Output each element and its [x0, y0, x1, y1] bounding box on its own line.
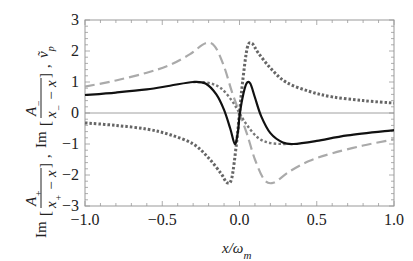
- svg-text:−1: −1: [62, 135, 79, 152]
- svg-text:x+ − x: x+ − x: [43, 170, 64, 209]
- svg-text:1: 1: [71, 73, 79, 90]
- svg-text:3: 3: [71, 11, 79, 28]
- svg-text:−0.5: −0.5: [148, 211, 177, 228]
- svg-text:,: ,: [37, 154, 53, 158]
- svg-text:A+: A+: [23, 190, 44, 207]
- x-tick-labels: −1.0−0.50.00.51.0: [70, 211, 404, 228]
- svg-text:0.5: 0.5: [307, 211, 327, 228]
- y-axis-label: Im [ A+ x+ − x ] , Im [ A− x− − x ] , ṽp: [23, 46, 64, 238]
- svg-text:Im: Im: [33, 131, 49, 148]
- svg-text:[: [: [37, 211, 53, 216]
- svg-text:1.0: 1.0: [384, 211, 404, 228]
- svg-text:x− − x: x− − x: [43, 80, 64, 119]
- x-axis-label: x/ωm: [221, 240, 251, 261]
- svg-text:,: ,: [37, 64, 53, 68]
- svg-text:]: ]: [37, 73, 53, 78]
- line-chart: −1.0−0.50.00.51.0 3210−1−2−3 x/ωm Im [ A…: [0, 0, 413, 261]
- svg-text:[: [: [37, 121, 53, 126]
- svg-text:2: 2: [71, 42, 79, 59]
- svg-text:A−: A−: [23, 100, 44, 117]
- svg-text:−3: −3: [62, 197, 79, 214]
- svg-text:0.0: 0.0: [230, 211, 250, 228]
- svg-text:−2: −2: [62, 166, 79, 183]
- svg-text:0: 0: [71, 104, 79, 121]
- y-tick-labels: 3210−1−2−3: [62, 11, 79, 214]
- svg-text:]: ]: [37, 163, 53, 168]
- svg-text:Im: Im: [33, 221, 49, 238]
- svg-text:ṽp: ṽp: [35, 46, 56, 58]
